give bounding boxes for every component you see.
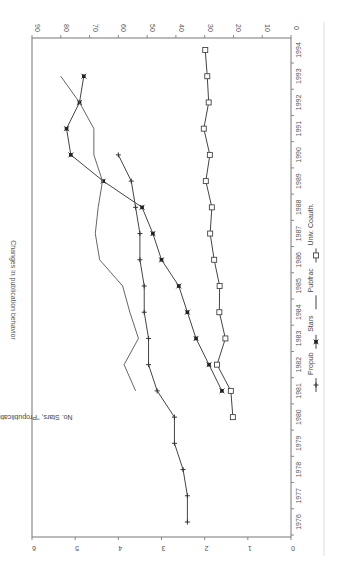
x-tick-label: 1994: [295, 42, 302, 58]
y-tick-label: 2: [205, 545, 209, 552]
x-tick-label: 1989: [295, 173, 302, 189]
chart-title: Changes in publication behavior: [9, 240, 17, 340]
x-tick-label: 1982: [295, 357, 302, 373]
x-tick-label: 1993: [295, 68, 302, 84]
x-tick-label: 1984: [295, 304, 302, 320]
y2-tick-label: 30: [207, 24, 214, 32]
x-tick-label: 1985: [295, 278, 302, 294]
series-propub: [116, 152, 190, 524]
plot-area: 1976197719781979198019811982198319841985…: [32, 24, 302, 552]
x-tick-label: 1992: [295, 95, 302, 111]
x-tick-label: 1977: [295, 488, 302, 504]
series-univ-coauth: [201, 48, 235, 420]
legend-label: Stars: [307, 315, 314, 332]
y-tick-label: 6: [32, 545, 36, 552]
x-axis: 1976197719781979198019811982198319841985…: [291, 42, 302, 535]
legend-label: Univ. Coauth.: [307, 203, 314, 245]
y2-tick-label: 10: [264, 24, 271, 32]
y-tick-label: 4: [118, 545, 122, 552]
x-tick-label: 1988: [295, 199, 302, 215]
legend-label: Pubfrac: [307, 268, 314, 293]
x-tick-label: 1990: [295, 147, 302, 163]
left-y-axis: 0123456: [32, 537, 295, 552]
y2-tick-label: 70: [92, 24, 99, 32]
y2-tick-label: 80: [63, 24, 70, 32]
series-layer: [61, 48, 236, 525]
x-tick-label: 1983: [295, 331, 302, 347]
chart: 1976197719781979198019811982198319841985…: [0, 0, 339, 580]
x-tick-label: 1980: [295, 409, 302, 425]
y-tick-label: 0: [291, 545, 295, 552]
y2-tick-label: 0: [293, 26, 300, 30]
series-stars: [64, 74, 224, 394]
y-tick-label: 5: [75, 545, 79, 552]
x-tick-label: 1987: [295, 226, 302, 242]
legend-item: Stars: [307, 315, 319, 349]
x-tick-label: 1979: [295, 435, 302, 451]
legend-item: Pubfrac: [307, 268, 316, 310]
legend-item: Univ. Coauth.: [307, 203, 319, 262]
x-tick-label: 1991: [295, 121, 302, 137]
legend: PropubStarsPubfracUniv. Coauth.: [307, 203, 319, 392]
left-axis-title: No. Stars, "Propublication" behavior: [0, 413, 73, 421]
y2-tick-label: 40: [178, 24, 185, 32]
x-tick-label: 1986: [295, 252, 302, 268]
y2-tick-label: 50: [149, 24, 156, 32]
y2-tick-label: 20: [235, 24, 242, 32]
legend-label: Propub: [307, 352, 315, 375]
y2-tick-label: 60: [120, 24, 127, 32]
plot-frame: [32, 38, 291, 537]
x-tick-label: 1981: [295, 383, 302, 399]
x-tick-label: 1976: [295, 514, 302, 530]
y-tick-label: 1: [248, 545, 252, 552]
y2-tick-label: 90: [34, 24, 41, 32]
series-pubfrac: [61, 76, 139, 391]
legend-item: Propub: [307, 352, 319, 392]
y-tick-label: 3: [161, 545, 165, 552]
x-tick-label: 1978: [295, 462, 302, 478]
right-y-axis: 0102030405060708090: [32, 24, 300, 38]
